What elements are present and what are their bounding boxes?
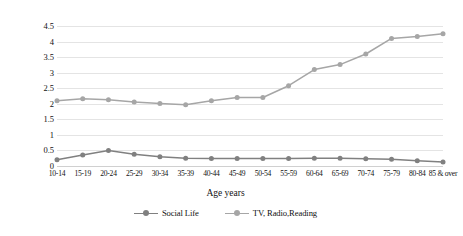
data-point-marker <box>183 156 188 161</box>
data-point-marker <box>389 36 394 41</box>
series-line <box>57 34 443 105</box>
data-point-marker <box>157 101 162 106</box>
x-axis-title: Age years <box>0 188 451 198</box>
plot-area <box>57 26 443 166</box>
data-point-marker <box>260 95 265 100</box>
data-point-marker <box>338 62 343 67</box>
data-point-marker <box>106 148 111 153</box>
chart-legend: Social LifeTV, Radio,Reading <box>0 208 451 218</box>
data-point-marker <box>363 156 368 161</box>
data-point-marker <box>132 152 137 157</box>
data-point-marker <box>209 156 214 161</box>
legend-label: Social Life <box>162 208 199 218</box>
data-point-marker <box>106 97 111 102</box>
legend-item[interactable]: TV, Radio,Reading <box>225 208 317 218</box>
legend-label: TV, Radio,Reading <box>253 208 317 218</box>
data-point-marker <box>312 67 317 72</box>
y-axis-tick-label: 1.5 <box>30 115 54 124</box>
gridline <box>57 166 443 167</box>
data-point-marker <box>415 158 420 163</box>
data-point-marker <box>209 98 214 103</box>
data-point-marker <box>183 102 188 107</box>
data-point-marker <box>235 95 240 100</box>
data-point-marker <box>80 153 85 158</box>
data-point-marker <box>55 98 60 103</box>
y-axis-tick-label: 4 <box>30 37 54 46</box>
data-point-marker <box>363 52 368 57</box>
data-point-marker <box>260 156 265 161</box>
data-point-marker <box>441 31 446 36</box>
x-axis-tick-label: 85 & over <box>423 169 463 179</box>
data-point-marker <box>235 156 240 161</box>
legend-item[interactable]: Social Life <box>134 208 199 218</box>
data-point-marker <box>80 96 85 101</box>
y-axis-tick-label: 2.5 <box>30 84 54 93</box>
data-point-marker <box>286 156 291 161</box>
y-axis-tick-label: 2 <box>30 99 54 108</box>
data-point-marker <box>286 83 291 88</box>
legend-line-marker-icon <box>225 209 249 218</box>
series-lines <box>57 26 443 166</box>
data-point-marker <box>312 156 317 161</box>
data-point-marker <box>441 159 446 164</box>
data-point-marker <box>157 154 162 159</box>
y-axis-tick-label: 0.5 <box>30 146 54 155</box>
data-point-marker <box>132 99 137 104</box>
data-point-marker <box>389 157 394 162</box>
y-axis-tick-label: 4.5 <box>30 22 54 31</box>
y-axis-tick-label: 3 <box>30 68 54 77</box>
y-axis-tick-label: 1 <box>30 130 54 139</box>
y-axis-tick-label: 3.5 <box>30 53 54 62</box>
y-axis-tick-labels: 00.511.522.533.544.5 <box>30 26 54 166</box>
data-point-marker <box>55 157 60 162</box>
data-point-marker <box>338 156 343 161</box>
legend-line-marker-icon <box>134 209 158 218</box>
data-point-marker <box>415 34 420 39</box>
series-line <box>57 150 443 162</box>
